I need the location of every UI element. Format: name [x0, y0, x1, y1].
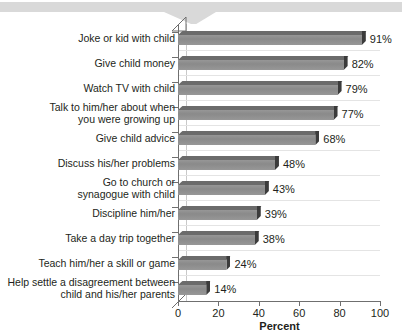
bar-face [178, 284, 206, 295]
bar[interactable] [178, 231, 259, 245]
bar[interactable] [178, 256, 230, 270]
bar-side-face [226, 256, 230, 270]
bar[interactable] [178, 156, 279, 170]
bar-side-face [344, 56, 348, 70]
category-label: Give child advice [0, 133, 175, 145]
category-label-line: Take a day trip together [0, 233, 175, 245]
x-axis-tick-label: 20 [198, 307, 238, 319]
bar[interactable] [178, 131, 319, 145]
bar-side-face [315, 131, 319, 145]
bar[interactable] [178, 281, 210, 295]
category-label: Discipline him/her [0, 208, 175, 220]
bar-value-label: 79% [346, 83, 368, 95]
bar-side-face [334, 106, 338, 120]
bar-face [178, 159, 275, 170]
horizontal-gridline [178, 225, 380, 226]
bar-value-label: 14% [214, 283, 236, 295]
category-label-line: Discipline him/her [0, 208, 175, 220]
bar-top-face [178, 256, 231, 260]
category-label-line: Give child advice [0, 133, 175, 145]
bar[interactable] [178, 206, 261, 220]
horizontal-gridline [178, 100, 380, 101]
bar-top-face [178, 181, 269, 185]
x-axis-line [178, 301, 381, 302]
bar-top-face [178, 206, 261, 210]
x-axis-tick [218, 301, 219, 306]
x-axis-tick-label: 80 [320, 307, 360, 319]
category-label: Watch TV with child [0, 83, 175, 95]
x-axis-tick [299, 301, 300, 306]
bar-value-label: 43% [273, 183, 295, 195]
horizontal-gridline [178, 250, 380, 251]
bar-value-label: 77% [342, 108, 364, 120]
bar-face [178, 209, 257, 220]
bar-chart: Percent 02040608010091%Joke or kid with … [0, 0, 402, 336]
bar-face [178, 259, 226, 270]
bar-face [178, 184, 265, 195]
category-label-line: Help settle a disagreement between [0, 277, 175, 289]
bar-value-label: 38% [263, 233, 285, 245]
x-axis-tick-label: 40 [239, 307, 279, 319]
bar[interactable] [178, 56, 348, 70]
x-axis-tick [259, 301, 260, 306]
bar-top-face [178, 231, 259, 235]
bar-value-label: 91% [370, 33, 392, 45]
x-axis-tick [340, 301, 341, 306]
bar-side-face [255, 231, 259, 245]
bar-face [178, 234, 255, 245]
x-axis-title: Percent [178, 320, 381, 332]
category-label-line: Watch TV with child [0, 83, 175, 95]
bar-face [178, 59, 344, 70]
bar-value-label: 48% [283, 158, 305, 170]
bar-value-label: 82% [352, 58, 374, 70]
category-label-line: Give child money [0, 58, 175, 70]
bar-top-face [178, 56, 348, 60]
bar[interactable] [178, 106, 338, 120]
bar-side-face [275, 156, 279, 170]
bar[interactable] [178, 31, 366, 45]
bar-value-label: 24% [234, 258, 256, 270]
category-label-line: Talk to him/her about when [0, 102, 175, 114]
bar-side-face [206, 281, 210, 295]
axis-depth-line-top [171, 16, 187, 32]
bar-side-face [257, 206, 261, 220]
bar[interactable] [178, 181, 269, 195]
category-label-line: Teach him/her a skill or game [0, 258, 175, 270]
horizontal-gridline [178, 75, 380, 76]
bar-face [178, 109, 334, 120]
category-label: Joke or kid with child [0, 33, 175, 45]
bar-side-face [362, 31, 366, 45]
bar-face [178, 84, 338, 95]
bar-side-face [265, 181, 269, 195]
horizontal-gridline [178, 50, 380, 51]
category-label: Go to church orsynagogue with child [0, 177, 175, 200]
bar-value-label: 39% [265, 208, 287, 220]
horizontal-gridline [178, 200, 380, 201]
x-axis-tick-label: 100 [360, 307, 400, 319]
bar-value-label: 68% [323, 133, 345, 145]
x-axis-tick-label: 0 [158, 307, 198, 319]
bar-top-face [178, 156, 279, 160]
category-label-line: Joke or kid with child [0, 33, 175, 45]
horizontal-gridline [178, 125, 380, 126]
bar-top-face [178, 281, 211, 285]
horizontal-gridline [178, 175, 380, 176]
category-label-line: synagogue with child [0, 189, 175, 201]
category-label: Discuss his/her problems [0, 158, 175, 170]
category-label: Help settle a disagreement betweenchild … [0, 277, 175, 300]
bar[interactable] [178, 81, 342, 95]
bar-top-face [178, 81, 342, 85]
category-label-line: Discuss his/her problems [0, 158, 175, 170]
bar-top-face [178, 106, 338, 110]
category-label-line: child and his/her parents [0, 289, 175, 301]
category-label: Talk to him/her about whenyou were growi… [0, 102, 175, 125]
x-axis-tick [178, 301, 179, 306]
bar-face [178, 134, 315, 145]
category-label: Give child money [0, 58, 175, 70]
category-label: Teach him/her a skill or game [0, 258, 175, 270]
bar-top-face [178, 131, 320, 135]
horizontal-gridline [178, 150, 380, 151]
category-label-line: you were growing up [0, 114, 175, 126]
x-axis-tick-label: 60 [279, 307, 319, 319]
horizontal-gridline [178, 275, 380, 276]
